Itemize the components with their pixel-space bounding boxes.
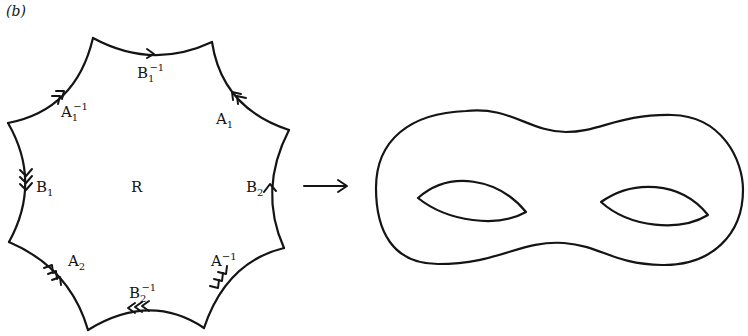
- panel-label: (b): [6, 3, 26, 19]
- label-bottom: B2−1: [129, 282, 156, 304]
- label-top: B1−1: [137, 62, 164, 84]
- arrow-top: [147, 49, 154, 58]
- right-arrow-icon: [304, 180, 347, 192]
- right-hole: [601, 187, 708, 225]
- label-lower-left: A2: [67, 252, 85, 272]
- arrow-right: [264, 184, 276, 192]
- label-left: B1: [36, 178, 53, 198]
- region-label: R: [131, 178, 143, 196]
- arrow-lower-left-3: [52, 277, 61, 285]
- edge-bottom: [88, 310, 204, 330]
- label-right: B2: [246, 178, 263, 198]
- label-lower-right: A−1: [210, 251, 237, 270]
- double-torus-surface: [376, 110, 743, 265]
- label-upper-left: A1−1: [60, 101, 88, 123]
- arrow-lower-right-3: [210, 280, 219, 288]
- fundamental-polygon-diagram: (b): [0, 0, 748, 336]
- left-hole: [418, 181, 526, 221]
- arrow-bottom-1: [128, 303, 135, 313]
- label-upper-right: A1: [215, 110, 233, 130]
- edge-left: [8, 123, 25, 242]
- edge-labels: B1−1 A1 B2 A−1 B2−1 A2 B1 A1−1: [36, 62, 263, 304]
- arrow-left-1: [20, 169, 32, 176]
